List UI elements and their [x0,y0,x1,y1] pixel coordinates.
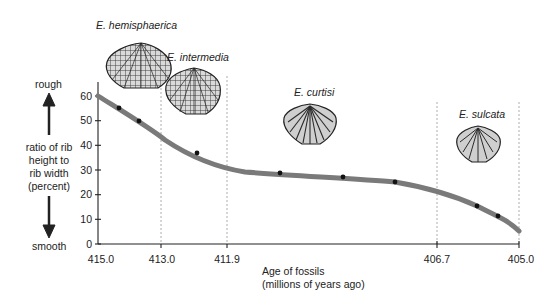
x-tick-label: 415.0 [81,253,121,265]
data-point [278,171,283,176]
shell-curtisi-icon [284,104,337,144]
y-tick-label: 30 [72,164,92,176]
y-tick-label: 50 [72,114,92,126]
data-point [195,151,200,156]
species-label-curtisi: E. curtisi [294,86,334,98]
data-point [117,106,122,111]
x-tick-label: 411.9 [207,253,247,265]
rough-label: rough [35,78,62,90]
smooth-arrow-icon [43,196,55,238]
x-tick-label: 413.0 [142,253,182,265]
shell-sulcata-icon [457,126,501,162]
y-tick-label: 40 [72,139,92,151]
x-tick-label: 406.7 [417,253,457,265]
data-point [393,180,398,185]
data-point [341,175,346,180]
rough-arrow-icon [43,93,55,135]
x-axis-label: Age of fossils (millions of years ago) [262,265,365,291]
species-label-sulcata: E. sulcata [459,108,505,120]
shell-intermedia-icon [166,68,221,114]
data-point [475,204,480,209]
species-label-intermedia: E. intermedia [167,51,229,63]
data-point [137,119,142,124]
x-tick-label: 405.0 [501,253,541,265]
smooth-label: smooth [32,240,66,252]
y-tick-label: 20 [72,188,92,200]
y-tick-label: 60 [72,90,92,102]
data-point [496,214,501,219]
shell-hemisphaerica-icon [106,43,171,88]
y-tick-label: 0 [72,238,92,250]
species-label-hemisphaerica: E. hemisphaerica [96,19,177,31]
y-tick-label: 10 [72,213,92,225]
